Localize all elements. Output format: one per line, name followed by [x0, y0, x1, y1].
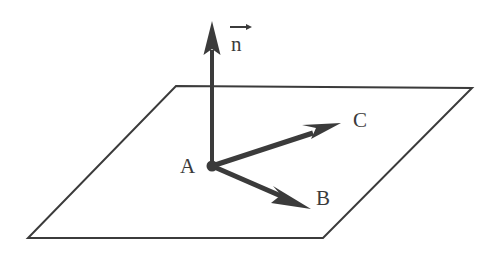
vector-b-arrowhead — [271, 186, 311, 209]
label-vector-n: n — [231, 34, 242, 55]
vector-b-shaft — [212, 166, 281, 196]
parallelogram-plane — [28, 86, 472, 238]
label-vector-b: B — [316, 188, 330, 209]
label-point-a: A — [180, 156, 195, 177]
label-vector-n-group: n — [229, 20, 255, 58]
label-vector-c: C — [353, 110, 367, 131]
normal-vector-arrowhead — [204, 21, 221, 55]
point-a-dot — [207, 161, 218, 172]
vector-c-shaft — [212, 133, 313, 166]
vector-plane-figure: A B C n — [0, 0, 500, 258]
